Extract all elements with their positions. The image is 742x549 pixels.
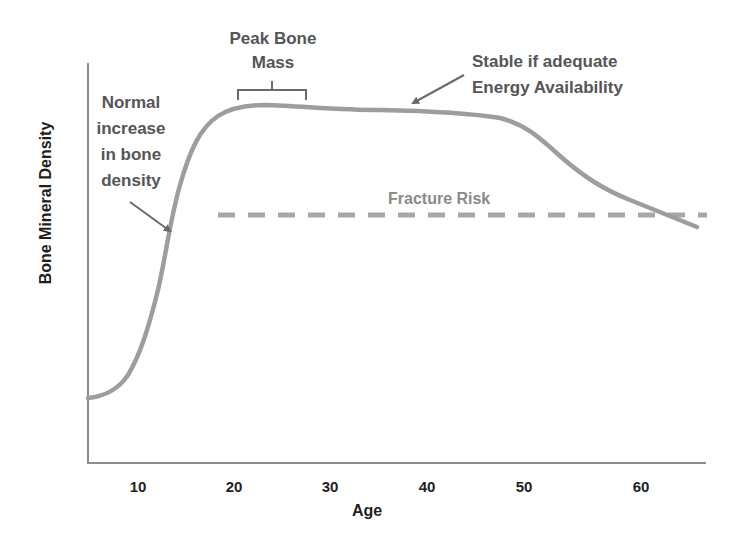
annotation-peak-bone-mass: Peak Bone Mass	[230, 27, 317, 75]
annotation-line: density	[97, 168, 166, 194]
x-tick-50: 50	[516, 478, 533, 495]
annotation-line: Energy Availability	[472, 75, 623, 101]
annotation-line: increase	[97, 116, 166, 142]
y-axis-label: Bone Mineral Density	[37, 122, 55, 285]
annotation-line: Stable if adequate	[472, 49, 623, 75]
annotation-line: Mass	[230, 51, 317, 75]
peak-bracket	[238, 81, 306, 100]
chart-canvas	[0, 0, 742, 549]
annotation-fracture-risk: Fracture Risk	[388, 186, 490, 212]
x-axis-label: Age	[352, 502, 382, 520]
x-tick-10: 10	[130, 478, 147, 495]
annotation-stable: Stable if adequate Energy Availability	[472, 49, 623, 101]
x-tick-30: 30	[322, 478, 339, 495]
bmd-curve	[88, 105, 697, 398]
x-tick-60: 60	[633, 478, 650, 495]
annotation-line: Normal	[97, 90, 166, 116]
x-tick-20: 20	[226, 478, 243, 495]
annotation-line: Peak Bone	[230, 27, 317, 51]
annotation-line: in bone	[97, 142, 166, 168]
annotation-normal-increase: Normal increase in bone density	[97, 90, 166, 194]
arrow-normal-increase	[130, 202, 170, 231]
arrow-stable	[413, 75, 464, 103]
x-tick-40: 40	[419, 478, 436, 495]
